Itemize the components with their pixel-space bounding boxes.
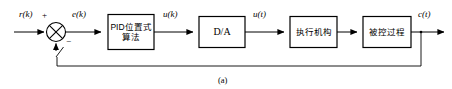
label-minus-sign: −	[66, 37, 71, 46]
block-label-da-converter: D/A	[199, 17, 245, 48]
label-control-digital: u(k)	[163, 10, 178, 19]
block-label-actuator: 执行机构	[290, 17, 337, 48]
sampler-switch-icon	[56, 47, 64, 57]
label-plus-sign: +	[42, 11, 47, 20]
block-diagram-figure: r(k) + − e(k) u(k) u(t) c(t) PID位置式 算法 D…	[0, 0, 452, 89]
block-label-process-line1: 被控过程	[369, 27, 405, 37]
block-label-da-line1: D/A	[213, 27, 230, 37]
label-output-signal: c(t)	[418, 10, 431, 19]
block-label-pid-line1: PID位置式	[110, 22, 151, 32]
label-control-analog: u(t)	[253, 10, 266, 19]
block-label-pid-line2: 算法	[122, 32, 140, 42]
block-label-actuator-line1: 执行机构	[296, 27, 332, 37]
block-label-controlled-process: 被控过程	[363, 17, 411, 48]
figure-caption: (a)	[218, 75, 227, 85]
label-error-signal: e(k)	[72, 10, 86, 19]
label-reference-signal: r(k)	[19, 10, 33, 19]
block-label-pid-algorithm: PID位置式 算法	[108, 15, 154, 50]
